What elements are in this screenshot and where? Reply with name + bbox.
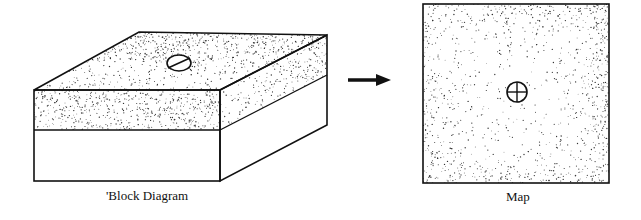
stipple-dot [217, 42, 218, 43]
stipple-dot [241, 38, 242, 39]
stipple-dot [539, 20, 540, 21]
stipple-dot [459, 91, 460, 92]
stipple-dot [109, 111, 110, 112]
stipple-dot [600, 122, 601, 123]
stipple-dot [607, 39, 608, 40]
stipple-dot [133, 97, 134, 98]
stipple-dot [61, 57, 62, 58]
stipple-dot [161, 50, 162, 51]
stipple-dot [606, 36, 607, 37]
stipple-dot [261, 89, 262, 90]
stipple-dot [56, 47, 57, 48]
stipple-dot [161, 124, 162, 125]
stipple-dot [249, 122, 250, 123]
stipple-dot [599, 179, 600, 180]
stipple-dot [573, 157, 574, 158]
stipple-dot [318, 70, 319, 71]
stipple-dot [121, 122, 122, 123]
stipple-dot [486, 63, 487, 64]
stipple-dot [582, 140, 583, 141]
stipple-dot [602, 100, 603, 101]
stipple-dot [46, 54, 47, 55]
stipple-dot [40, 54, 41, 55]
stipple-dot [260, 114, 261, 115]
stipple-dot [218, 35, 219, 36]
stipple-dot [100, 105, 101, 106]
stipple-dot [520, 45, 521, 46]
stipple-dot [537, 7, 538, 8]
stipple-dot [572, 109, 573, 110]
stipple-dot [578, 169, 579, 170]
stipple-dot [438, 55, 439, 56]
stipple-dot [44, 66, 45, 67]
stipple-dot [207, 106, 208, 107]
stipple-dot [570, 115, 571, 116]
stipple-dot [314, 49, 315, 50]
stipple-dot [165, 57, 166, 58]
stipple-dot [489, 32, 490, 33]
stipple-dot [217, 111, 218, 112]
stipple-dot [497, 98, 498, 99]
stipple-dot [590, 124, 591, 125]
stipple-dot [52, 44, 53, 45]
stipple-dot [99, 33, 100, 34]
stipple-dot [252, 114, 253, 115]
stipple-dot [424, 89, 425, 90]
stipple-dot [293, 90, 294, 91]
stipple-dot [318, 118, 319, 119]
stipple-dot [63, 45, 64, 46]
stipple-dot [565, 5, 566, 6]
stipple-dot [586, 59, 587, 60]
stipple-dot [325, 95, 326, 96]
stipple-dot [168, 36, 169, 37]
stipple-dot [92, 85, 93, 86]
stipple-dot [455, 152, 456, 153]
stipple-dot [434, 120, 435, 121]
stipple-dot [278, 112, 279, 113]
stipple-dot [579, 30, 580, 31]
stipple-dot [121, 94, 122, 95]
stipple-dot [445, 14, 446, 15]
stipple-dot [311, 78, 312, 79]
stipple-dot [501, 13, 502, 14]
stipple-dot [178, 114, 179, 115]
stipple-dot [297, 115, 298, 116]
stipple-dot [297, 76, 298, 77]
stipple-dot [48, 37, 49, 38]
stipple-dot [250, 30, 251, 31]
stipple-dot [579, 101, 580, 102]
stipple-dot [466, 132, 467, 133]
stipple-dot [224, 70, 225, 71]
stipple-dot [269, 88, 270, 89]
stipple-dot [505, 8, 506, 9]
stipple-dot [559, 18, 560, 19]
stipple-dot [45, 78, 46, 79]
stipple-dot [243, 64, 244, 65]
stipple-dot [485, 175, 486, 176]
stipple-dot [209, 95, 210, 96]
stipple-dot [211, 81, 212, 82]
stipple-dot [158, 110, 159, 111]
stipple-dot [443, 122, 444, 123]
stipple-dot [298, 51, 299, 52]
stipple-dot [220, 78, 221, 79]
stipple-dot [428, 43, 429, 44]
stipple-dot [89, 111, 90, 112]
stipple-dot [60, 85, 61, 86]
stipple-dot [324, 55, 325, 56]
stipple-dot [285, 75, 286, 76]
stipple-dot [63, 50, 64, 51]
stipple-dot [524, 31, 525, 32]
stipple-dot [143, 59, 144, 60]
stipple-dot [45, 95, 46, 96]
stipple-dot [114, 99, 115, 100]
stipple-dot [211, 100, 212, 101]
stipple-dot [308, 128, 309, 129]
stipple-dot [41, 49, 42, 50]
stipple-dot [157, 48, 158, 49]
stipple-dot [443, 141, 444, 142]
stipple-dot [48, 46, 49, 47]
stipple-dot [315, 114, 316, 115]
stipple-dot [591, 62, 592, 63]
stipple-dot [99, 48, 100, 49]
